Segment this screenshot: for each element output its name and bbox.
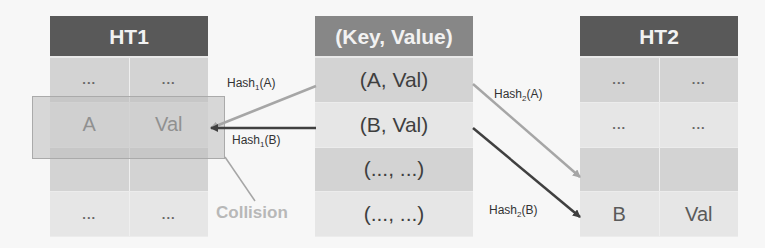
hash1-a-label: Hash1(A): [227, 76, 275, 92]
hash2-b-label: Hash2(B): [489, 203, 537, 219]
hash1-b-label: Hash1(B): [232, 133, 280, 149]
hash2-a-label: Hash2(A): [494, 87, 542, 103]
collision-label: Collision: [216, 203, 288, 223]
collision-callout-line: [225, 157, 255, 201]
arrows-layer: [0, 0, 765, 248]
